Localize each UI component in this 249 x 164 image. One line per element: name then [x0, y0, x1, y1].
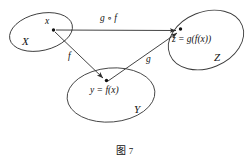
arrow-g-compose-f [56, 30, 176, 31]
caption-number: 7 [129, 146, 134, 156]
element-label-z: z = g(f(x)) [172, 35, 211, 45]
arrow-label-g: g [146, 55, 151, 65]
caption-prefix: 图 [116, 145, 126, 156]
figure-caption: 图 7 [0, 142, 249, 157]
set-label-x: X [22, 36, 29, 47]
element-dot-z [179, 27, 182, 30]
function-composition-diagram [0, 0, 249, 164]
set-ellipse-x [6, 7, 77, 57]
arrow-f [55, 32, 103, 78]
arrow-g [108, 33, 177, 81]
arrow-label-g-compose-f: g ∘ f [100, 14, 117, 24]
set-label-y: Y [134, 104, 140, 115]
figure-container: X Y Z x y = f(x) z = g(f(x)) f g g ∘ f 图… [0, 0, 249, 164]
set-label-z: Z [214, 52, 220, 63]
element-label-y: y = f(x) [90, 86, 119, 96]
element-dot-y [105, 79, 108, 82]
arrow-label-f: f [68, 52, 71, 62]
element-dot-x [52, 28, 55, 31]
element-label-x: x [45, 17, 49, 27]
